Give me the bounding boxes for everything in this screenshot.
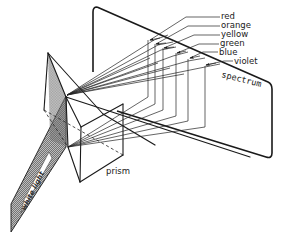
upper-ray-fan <box>67 35 220 95</box>
label-violet: violet <box>234 56 258 66</box>
lower-ray-fan <box>68 40 205 147</box>
prism-label: prism <box>106 166 130 176</box>
spectrum-label: spectrum <box>221 69 263 89</box>
color-labels: red orange yellow green blue violet <box>219 11 258 66</box>
prism-dispersion-diagram: white light prism <box>0 0 281 239</box>
